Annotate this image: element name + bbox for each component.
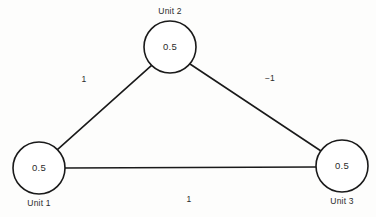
- edge-group: [57, 64, 321, 168]
- edge-unit1-unit3: [65, 167, 316, 168]
- node-unit2[interactable]: 0.5 Unit 2: [144, 6, 196, 73]
- node-unit1[interactable]: 0.5 Unit 1: [13, 142, 65, 208]
- node-value-unit1: 0.5: [32, 162, 46, 173]
- node-unit3[interactable]: 0.5 Unit 3: [316, 140, 368, 206]
- node-label-unit2: Unit 2: [158, 6, 181, 16]
- node-label-unit3: Unit 3: [330, 196, 353, 206]
- node-value-unit3: 0.5: [335, 160, 349, 171]
- edge-unit1-unit2: [57, 65, 151, 149]
- edge-unit2-unit3: [190, 64, 321, 151]
- edge-weight-group: 1 −1 1: [82, 73, 276, 204]
- node-label-unit1: Unit 1: [27, 198, 50, 208]
- network-diagram: 1 −1 1 0.5 Unit 1 0.5 Unit 2 0.5 Unit 3: [0, 0, 376, 217]
- edge-weight-unit1-unit2: 1: [82, 74, 87, 84]
- edge-weight-unit1-unit3: 1: [187, 194, 192, 204]
- edge-weight-unit2-unit3: −1: [265, 73, 275, 83]
- node-value-unit2: 0.5: [163, 41, 177, 52]
- diagram-canvas: 1 −1 1 0.5 Unit 1 0.5 Unit 2 0.5 Unit 3: [0, 0, 376, 217]
